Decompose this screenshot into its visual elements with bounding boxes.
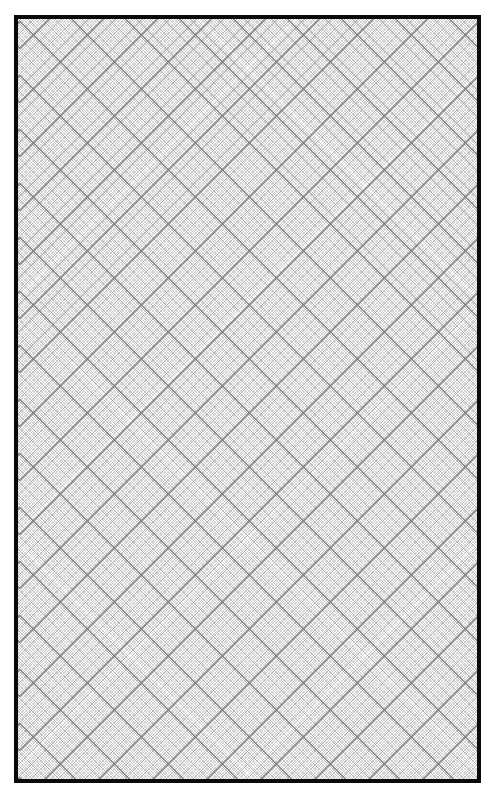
- page: [0, 0, 490, 800]
- major-grid-lines: [18, 19, 477, 779]
- graph-paper-frame: [14, 15, 481, 783]
